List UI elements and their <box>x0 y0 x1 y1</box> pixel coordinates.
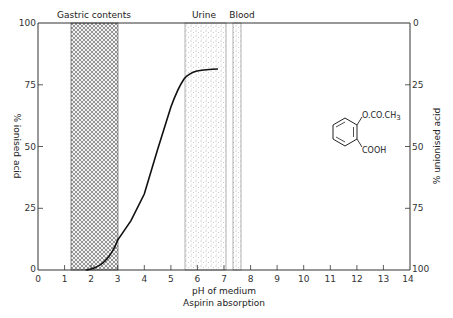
svg-text:14: 14 <box>402 274 414 284</box>
x-axis-label: pH of medium <box>192 286 256 296</box>
svg-text:7: 7 <box>221 274 227 284</box>
svg-text:50: 50 <box>25 142 37 152</box>
svg-text:0: 0 <box>35 274 41 284</box>
svg-text:0: 0 <box>30 264 36 274</box>
chart-caption: Aspirin absorption <box>183 298 265 308</box>
svg-text:6: 6 <box>195 274 201 284</box>
svg-text:3: 3 <box>115 274 121 284</box>
svg-text:0: 0 <box>413 18 419 28</box>
svg-text:12: 12 <box>351 274 362 284</box>
svg-text:100: 100 <box>412 264 429 274</box>
svg-text:2: 2 <box>88 274 94 284</box>
carboxyl-group-label: COOH <box>362 146 386 155</box>
svg-text:25: 25 <box>412 80 423 90</box>
y-axis-label-right: % unionised acid <box>432 108 442 185</box>
svg-text:13: 13 <box>378 274 389 284</box>
gastric-band <box>71 23 118 270</box>
blood-band <box>233 23 241 270</box>
urine-band <box>185 23 226 270</box>
svg-text:4: 4 <box>141 274 147 284</box>
acetoxy-group-label: O.CO.CH3 <box>362 111 401 122</box>
aspirin-chart: 0 1 2 3 4 5 6 7 8 9 10 11 12 13 14 100 7… <box>0 0 453 318</box>
y-axis-label-left: % ionised acid <box>12 113 22 178</box>
svg-text:75: 75 <box>412 203 423 213</box>
y-tick-labels-right: 0 25 50 75 100 <box>412 18 429 274</box>
urine-label: Urine <box>192 10 216 20</box>
aspirin-structure: O.CO.CH3 COOH <box>333 111 401 155</box>
svg-text:100: 100 <box>19 18 36 28</box>
gastric-label: Gastric contents <box>57 10 131 20</box>
svg-text:10: 10 <box>298 274 310 284</box>
svg-text:9: 9 <box>274 274 280 284</box>
svg-text:11: 11 <box>325 274 336 284</box>
y-ticks-right <box>405 85 410 209</box>
x-tick-labels: 0 1 2 3 4 5 6 7 8 9 10 11 12 13 14 <box>35 274 414 284</box>
svg-text:8: 8 <box>248 274 254 284</box>
blood-label: Blood <box>229 10 254 20</box>
svg-text:75: 75 <box>25 80 36 90</box>
svg-text:50: 50 <box>412 142 424 152</box>
svg-text:1: 1 <box>62 274 68 284</box>
svg-text:5: 5 <box>168 274 174 284</box>
y-ticks-left <box>38 85 43 209</box>
svg-text:25: 25 <box>25 203 36 213</box>
